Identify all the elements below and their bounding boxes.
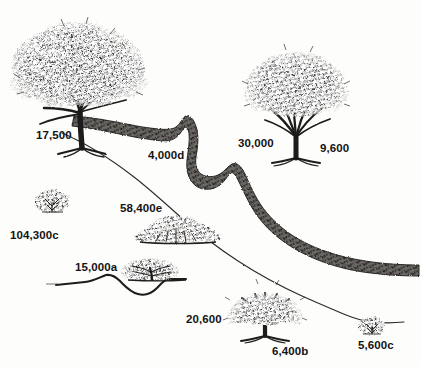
low-thicket — [134, 216, 222, 244]
label-58400e: 58,400e — [120, 203, 162, 215]
label-15000a: 15,000a — [75, 262, 117, 274]
label-17500: 17,500 — [36, 130, 72, 142]
label-5600c: 5,600c — [358, 340, 394, 352]
label-4000d: 4,000d — [148, 150, 184, 162]
label-30000: 30,000 — [238, 138, 274, 150]
label-104300c: 104,300c — [10, 230, 59, 242]
medium-tree-bottom — [221, 279, 309, 343]
low-spreading-shrub — [121, 257, 186, 281]
landscape-illustration: 17,500 4,000d 30,000 9,600 104,300c 58,4… — [0, 0, 421, 367]
label-9600: 9,600 — [320, 143, 349, 155]
small-shrub-right — [359, 316, 385, 335]
label-6400b: 6,400b — [272, 346, 308, 358]
small-shrub-left — [35, 189, 69, 213]
thin-contour-line — [62, 133, 404, 323]
label-20600: 20,600 — [186, 314, 222, 326]
drawing-layer — [0, 0, 421, 367]
